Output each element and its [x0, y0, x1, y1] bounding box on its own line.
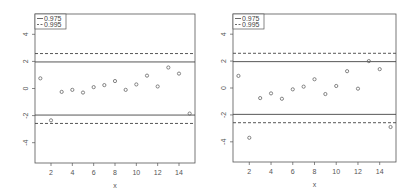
data-point: [39, 77, 42, 80]
x-tick-label: 2: [247, 168, 251, 175]
x-tick-label: 12: [154, 169, 162, 176]
data-point: [367, 59, 370, 62]
chart-left: 2468101214-4-2024x0.9750.995: [0, 0, 208, 195]
chart-right: 2468101214-4-2024x0.9750.995: [198, 0, 406, 195]
data-point: [346, 70, 349, 73]
data-point: [145, 74, 148, 77]
data-point: [135, 83, 138, 86]
x-tick-label: 12: [354, 168, 362, 175]
x-tick-label: 4: [269, 168, 273, 175]
y-tick-label: 2: [220, 59, 227, 63]
y-tick-label: -2: [220, 112, 227, 118]
data-point: [81, 91, 84, 94]
plot-right: 2468101214-4-2024x0.9750.995: [198, 0, 406, 195]
y-tick-label: 0: [22, 86, 29, 90]
data-point: [356, 87, 359, 90]
x-tick-label: 14: [376, 168, 384, 175]
legend: 0.9750.995: [233, 14, 264, 29]
x-tick-label: 10: [132, 169, 140, 176]
x-axis-label: x: [313, 181, 317, 188]
plot-frame: [233, 14, 396, 162]
y-tick-label: 4: [220, 32, 227, 36]
data-point: [177, 72, 180, 75]
data-point: [291, 88, 294, 91]
data-point: [49, 119, 52, 122]
x-tick-label: 10: [332, 168, 340, 175]
x-tick-label: 6: [92, 169, 96, 176]
y-tick-label: 4: [22, 32, 29, 36]
data-point: [237, 74, 240, 77]
y-tick-label: 0: [220, 86, 227, 90]
data-point: [156, 85, 159, 88]
data-point: [389, 125, 392, 128]
y-tick-label: 2: [22, 59, 29, 63]
data-point: [113, 79, 116, 82]
data-point: [92, 86, 95, 89]
x-tick-label: 2: [49, 169, 53, 176]
data-point: [60, 90, 63, 93]
data-point: [280, 97, 283, 100]
legend: 0.9750.995: [35, 14, 66, 29]
data-point: [71, 88, 74, 91]
y-tick-label: -4: [220, 139, 227, 145]
x-tick-label: 8: [113, 169, 117, 176]
legend-label-995: 0.995: [242, 21, 260, 28]
data-point: [378, 68, 381, 71]
data-point: [324, 92, 327, 95]
data-point: [103, 84, 106, 87]
data-point: [259, 96, 262, 99]
data-point: [269, 92, 272, 95]
y-tick-label: -2: [22, 112, 29, 118]
plot-frame: [35, 14, 195, 163]
x-tick-label: 14: [175, 169, 183, 176]
data-point: [313, 78, 316, 81]
x-tick-label: 4: [70, 169, 74, 176]
data-point: [248, 136, 251, 139]
x-axis-label: x: [113, 182, 117, 189]
data-point: [124, 88, 127, 91]
data-point: [335, 84, 338, 87]
x-tick-label: 8: [313, 168, 317, 175]
x-tick-label: 6: [291, 168, 295, 175]
legend-label-995: 0.995: [44, 21, 62, 28]
data-point: [167, 66, 170, 69]
y-tick-label: -4: [22, 139, 29, 145]
plot-left: 2468101214-4-2024x0.9750.995: [0, 0, 208, 195]
data-point: [302, 85, 305, 88]
